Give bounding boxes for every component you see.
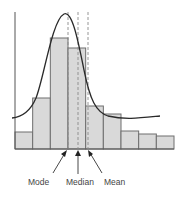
median-label: Median	[66, 177, 94, 187]
histogram-bars	[15, 38, 174, 149]
mode-label: Mode	[28, 177, 50, 187]
histogram-chart: Mode Median Mean	[0, 0, 183, 200]
histogram-bar	[50, 38, 68, 149]
histogram-bar	[15, 132, 33, 149]
mode-arrow	[53, 150, 67, 173]
histogram-bar	[121, 131, 139, 149]
histogram-bar	[156, 136, 174, 149]
histogram-bar	[33, 98, 51, 149]
histogram-bar	[103, 114, 121, 149]
mean-label: Mean	[104, 177, 126, 187]
histogram-bar	[139, 134, 157, 149]
median-arrow	[75, 150, 81, 174]
mean-arrow	[88, 150, 102, 173]
